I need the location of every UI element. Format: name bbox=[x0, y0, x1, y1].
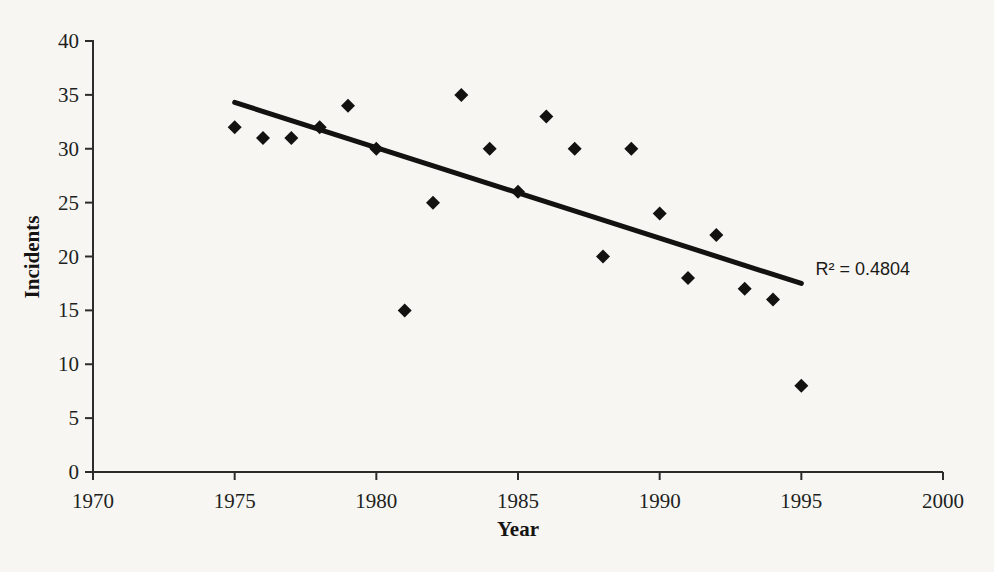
x-tick-label: 2000 bbox=[922, 489, 964, 513]
y-tick-label: 0 bbox=[69, 460, 80, 484]
data-point bbox=[624, 142, 638, 156]
linear-trendline bbox=[235, 102, 802, 283]
data-point bbox=[738, 282, 752, 296]
y-tick-label: 20 bbox=[58, 245, 79, 269]
x-tick-label: 1990 bbox=[639, 489, 681, 513]
data-point bbox=[256, 131, 270, 145]
data-point bbox=[766, 293, 780, 307]
x-tick-label: 1980 bbox=[355, 489, 397, 513]
x-tick-label: 1995 bbox=[780, 489, 822, 513]
chart-canvas: 1970197519801985199019952000051015202530… bbox=[0, 0, 994, 572]
data-point bbox=[483, 142, 497, 156]
data-point bbox=[709, 228, 723, 242]
y-tick-label: 40 bbox=[58, 29, 79, 53]
r-squared-annotation: R² = 0.4804 bbox=[816, 259, 911, 279]
data-point bbox=[228, 120, 242, 134]
y-tick-label: 30 bbox=[58, 137, 79, 161]
y-tick-label: 10 bbox=[58, 352, 79, 376]
y-tick-label: 15 bbox=[58, 298, 79, 322]
data-point bbox=[681, 271, 695, 285]
data-point bbox=[426, 196, 440, 210]
scatter-plot-figure: 1970197519801985199019952000051015202530… bbox=[0, 0, 994, 572]
data-point bbox=[568, 142, 582, 156]
data-point bbox=[454, 88, 468, 102]
trendline bbox=[235, 102, 802, 283]
data-point bbox=[284, 131, 298, 145]
data-point bbox=[539, 109, 553, 123]
scatter-points bbox=[228, 88, 809, 393]
data-point bbox=[398, 303, 412, 317]
x-tick-label: 1985 bbox=[497, 489, 539, 513]
x-tick-label: 1970 bbox=[72, 489, 114, 513]
x-tick-label: 1975 bbox=[214, 489, 256, 513]
y-axis-title: Incidents bbox=[20, 216, 44, 299]
x-axis-title: Year bbox=[497, 517, 539, 541]
y-tick-label: 25 bbox=[58, 191, 79, 215]
data-point bbox=[596, 250, 610, 264]
y-tick-label: 5 bbox=[69, 406, 80, 430]
data-point bbox=[794, 379, 808, 393]
data-point bbox=[341, 99, 355, 113]
y-tick-label: 35 bbox=[58, 83, 79, 107]
data-point bbox=[653, 206, 667, 220]
